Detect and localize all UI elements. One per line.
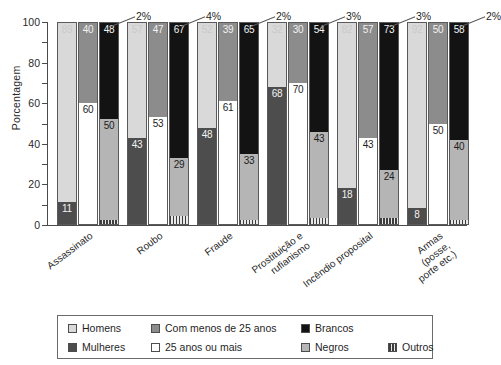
stacked-bar-idade[interactable]: 4060: [78, 22, 98, 225]
y-axis-tick-label: 60: [0, 98, 40, 109]
stacked-bar-raca[interactable]: 7324: [379, 22, 399, 225]
stacked-bar-raca[interactable]: 5840: [449, 22, 469, 225]
bar-segment-outros: [450, 220, 468, 224]
legend-swatch-under25: [151, 324, 160, 333]
bar-segment-value: 11: [58, 203, 76, 214]
bar-segment-value: 82: [338, 24, 356, 35]
stacked-bar-sexo[interactable]: 3268: [267, 22, 287, 225]
legend-swatch-over25: [151, 343, 160, 352]
legend-item-outros[interactable]: Outros: [388, 341, 434, 353]
legend-swatch-outros: [388, 343, 397, 352]
bar-segment-mulheres: 8: [408, 208, 426, 224]
stacked-bar-sexo[interactable]: 928: [407, 22, 427, 225]
bar-segment-under25: 40: [79, 23, 97, 103]
bar-segment-value: 30: [289, 24, 307, 35]
bar-segment-value: 40: [79, 24, 97, 35]
bar-segment-homens: 89: [58, 23, 76, 202]
stacked-bar-sexo[interactable]: 8218: [337, 22, 357, 225]
bar-segment-outros: [310, 218, 328, 224]
bar-segment-mulheres: 43: [128, 138, 146, 224]
bar-segment-outros: [380, 218, 398, 224]
legend-label: Com menos de 25 anos: [165, 322, 276, 334]
bar-segment-value: 58: [450, 24, 468, 35]
outros-percent-annotation: 2%: [136, 11, 151, 22]
bar-segment-value: 43: [359, 139, 377, 150]
legend-swatch-homens: [68, 324, 77, 333]
bar-group: 524839616533: [197, 22, 259, 225]
bar-segment-under25: 47: [149, 23, 167, 117]
legend-label: Homens: [82, 322, 121, 334]
bar-segment-under25: 57: [359, 23, 377, 138]
bar-group: 821857437324: [337, 22, 399, 225]
bar-segment-value: 50: [429, 24, 447, 35]
bar-segment-value: 52: [198, 24, 216, 35]
bar-segment-mulheres: 68: [268, 87, 286, 224]
bar-segment-value: 47: [149, 24, 167, 35]
stacked-bar-raca[interactable]: 6729: [169, 22, 189, 225]
stacked-bar-idade[interactable]: 5743: [358, 22, 378, 225]
bar-segment-value: 73: [380, 24, 398, 35]
bar-segment-homens: 92: [408, 23, 426, 208]
bar-segment-homens: 32: [268, 23, 286, 87]
bar-segment-negros: 40: [450, 140, 468, 220]
bar-segment-value: 43: [310, 133, 328, 144]
bar-segment-value: 92: [408, 24, 426, 35]
bar-segment-value: 24: [380, 171, 398, 182]
bar-segment-over25: 53: [149, 117, 167, 224]
legend-label: Brancos: [315, 322, 354, 334]
bar-group: 891140604850: [57, 22, 119, 225]
legend-item-brancos[interactable]: Brancos: [301, 322, 354, 334]
bar-segment-homens: 82: [338, 23, 356, 188]
legend-item-negros[interactable]: Negros: [301, 341, 349, 353]
legend-item-homens[interactable]: Homens: [68, 322, 121, 334]
bar-segment-value: 8: [408, 209, 426, 220]
stacked-bar-raca[interactable]: 5443: [309, 22, 329, 225]
stacked-bar-sexo[interactable]: 5743: [127, 22, 147, 225]
bar-segment-negros: 43: [310, 132, 328, 218]
bar-group: 326830705443: [267, 22, 329, 225]
stacked-bar-raca[interactable]: 4850: [99, 22, 119, 225]
bar-group: 92850505840: [407, 22, 469, 225]
bar-segment-negros: 33: [240, 154, 258, 220]
legend-label: Negros: [315, 341, 349, 353]
stacked-bar-sexo[interactable]: 5248: [197, 22, 217, 225]
bar-segment-over25: 43: [359, 138, 377, 224]
bar-segment-homens: 52: [198, 23, 216, 128]
bar-segment-value: 18: [338, 189, 356, 200]
bar-segment-over25: 61: [219, 101, 237, 224]
bar-segment-brancos: 67: [170, 23, 188, 158]
outros-percent-annotation: 2%: [276, 11, 291, 22]
stacked-bar-idade[interactable]: 5050: [428, 22, 448, 225]
bar-segment-value: 48: [100, 24, 118, 35]
legend-label: Mulheres: [82, 341, 125, 353]
bar-segment-value: 70: [289, 84, 307, 95]
bar-segment-outros: [240, 220, 258, 224]
bar-group: 574347536729: [127, 22, 189, 225]
bar-segment-value: 32: [268, 24, 286, 35]
legend-item-over25[interactable]: 25 anos ou mais: [151, 341, 242, 353]
stacked-bar-sexo[interactable]: 8911: [57, 22, 77, 225]
stacked-bar-idade[interactable]: 4753: [148, 22, 168, 225]
bar-segment-value: 50: [429, 125, 447, 136]
bar-segment-value: 43: [128, 139, 146, 150]
stacked-bar-idade[interactable]: 3961: [218, 22, 238, 225]
legend-label: Outros: [402, 341, 434, 353]
legend-swatch-mulheres: [68, 343, 77, 352]
bar-segment-value: 68: [268, 88, 286, 99]
outros-percent-annotation: 2%: [486, 11, 501, 22]
bar-segment-value: 40: [450, 141, 468, 152]
stacked-bar-idade[interactable]: 3070: [288, 22, 308, 225]
bar-segment-value: 29: [170, 159, 188, 170]
y-axis-tick-label: 20: [0, 179, 40, 190]
bar-segment-value: 60: [79, 104, 97, 115]
bar-segment-brancos: 54: [310, 23, 328, 132]
stacked-bar-raca[interactable]: 6533: [239, 22, 259, 225]
bar-segment-over25: 60: [79, 103, 97, 224]
legend-item-mulheres[interactable]: Mulheres: [68, 341, 125, 353]
bar-segment-brancos: 58: [450, 23, 468, 140]
y-axis-tick-label: 100: [0, 17, 40, 28]
bar-segment-value: 65: [240, 24, 258, 35]
outros-percent-annotation: 3%: [346, 11, 361, 22]
legend-item-under25[interactable]: Com menos de 25 anos: [151, 322, 276, 334]
